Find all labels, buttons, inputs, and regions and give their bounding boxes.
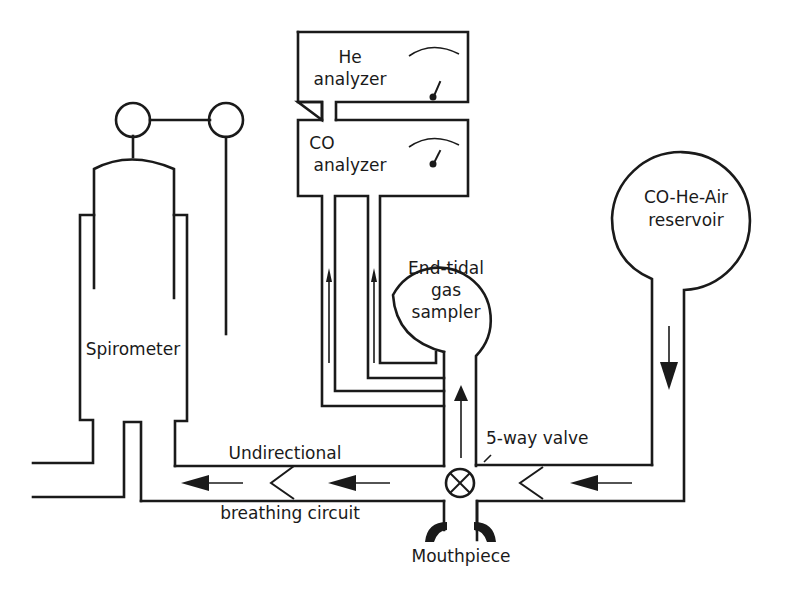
valve-label: 5-way valve (486, 428, 588, 448)
analyzer-flow-arrows (326, 268, 377, 363)
spirometer: Spirometer (33, 103, 243, 501)
diagram-canvas: He analyzer CO analyzer End-tidal gas s (0, 0, 791, 596)
he-analyzer-label-1: He (338, 47, 361, 67)
sampler-label-3: sampler (412, 302, 481, 322)
co-gauge-icon (409, 138, 459, 167)
he-analyzer: He analyzer (298, 32, 468, 120)
breathing-circuit: Undirectional breathing circuit (141, 443, 444, 523)
spirometer-label: Spirometer (86, 339, 180, 359)
co-analyzer-label-2: analyzer (314, 155, 387, 175)
right-check-valve (520, 467, 632, 499)
sampler-label-1: End-tidal (408, 258, 484, 278)
sampler-label-2: gas (431, 280, 461, 300)
mouthpiece-label: Mouthpiece (411, 546, 510, 566)
mouthpiece: Mouthpiece (411, 501, 510, 566)
reservoir-label-2: reservoir (648, 210, 724, 230)
circuit-label-1: Undirectional (229, 443, 342, 463)
co-he-air-reservoir: CO-He-Air reservoir (476, 152, 750, 540)
he-analyzer-label-2: analyzer (314, 69, 387, 89)
co-analyzer-label-1: CO (309, 133, 334, 153)
circuit-label-2: breathing circuit (220, 503, 360, 523)
reservoir-flow-arrow (660, 326, 678, 390)
he-gauge-icon (409, 47, 459, 100)
sampler-flow-arrow (454, 385, 468, 458)
five-way-valve: 5-way valve (446, 428, 588, 497)
reservoir-label-1: CO-He-Air (644, 187, 728, 207)
